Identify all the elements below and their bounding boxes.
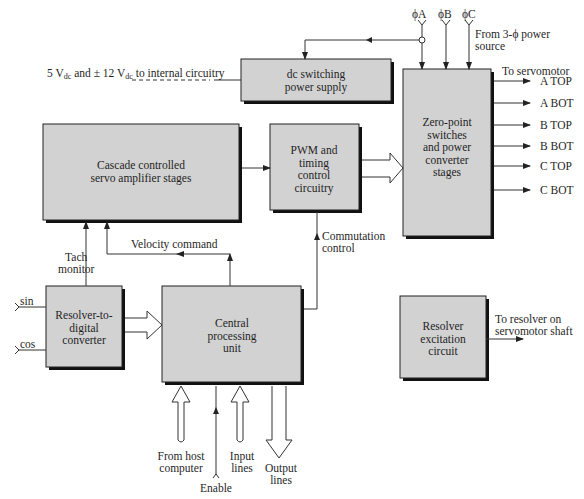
power-source-label: From 3-ϕ powersource — [475, 28, 550, 52]
pwm-to-zero-point-bus-arrow — [362, 153, 403, 183]
excitation-label: Resolverexcitationcircuit — [420, 320, 465, 358]
output-a-top: A TOP — [540, 75, 572, 87]
output-lines-label: Outputlines — [265, 462, 297, 486]
cascade-label: Cascade controlledservo amplifier stages — [91, 159, 192, 184]
output-c-bot: C BOT — [540, 184, 574, 196]
commutation-control-label: Commutationcontrol — [322, 230, 385, 254]
dc-supply-label: dc switchingpower supply — [285, 68, 347, 93]
output-a-bot: A BOT — [540, 97, 574, 109]
output-b-bot: B BOT — [540, 140, 574, 152]
resolver-output-label: To resolver onservomotor shaft — [495, 313, 573, 337]
output-bus-arrow — [266, 386, 292, 458]
rdc-label: Resolver-to-digitalconverter — [55, 309, 112, 347]
sin-label: sin — [20, 295, 33, 307]
commutation-line — [304, 212, 317, 309]
velocity-command-label: Velocity command — [131, 238, 218, 250]
pwm-label: PWM andtimingcontrolcircuitry — [291, 144, 338, 194]
zero-point-label: Zero-pointswitchesand powerconverterstag… — [422, 116, 471, 179]
output-b-top: B TOP — [540, 119, 572, 131]
host-bus-arrow — [172, 386, 190, 442]
phase-b-label: ϕB — [438, 8, 452, 20]
host-computer-label: From hostcomputer — [158, 450, 205, 474]
input-bus-arrow — [231, 386, 249, 442]
phase-a-label: ϕA — [412, 8, 426, 20]
servomotor-output-arrows — [494, 81, 530, 190]
supply-output-label: 5 Vdc and ± 12 Vdc to internal circuitry — [47, 67, 225, 83]
phase-c-label: ϕC — [462, 8, 476, 20]
cpu-label: Centralprocessingunit — [207, 317, 256, 355]
enable-label: Enable — [200, 482, 232, 494]
output-c-top: C TOP — [540, 160, 572, 172]
tach-monitor-label: Tachmonitor — [58, 251, 94, 275]
rdc-to-cpu-bus-arrow — [125, 311, 162, 339]
input-lines-label: Inputlines — [230, 450, 254, 474]
cos-label: cos — [20, 338, 35, 350]
